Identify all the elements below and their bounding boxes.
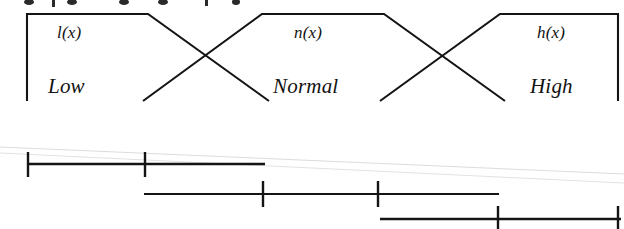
membership-curve-high (380, 14, 618, 101)
term-label-low: Low (48, 76, 85, 97)
membership-label-n-of-x: n(x) (294, 24, 322, 41)
interval-high (380, 206, 621, 229)
membership-label-h-of-x: h(x) (537, 24, 565, 41)
fuzzy-membership-figure: l(x) n(x) h(x) Low Normal High (0, 0, 624, 229)
faint-diagonal-upper-line (0, 147, 624, 174)
interval-normal (144, 181, 499, 207)
faint-diagonal-lower-line (0, 153, 624, 183)
membership-label-l-of-x: l(x) (57, 24, 81, 41)
cropped-text-remnants (24, 0, 240, 7)
term-label-normal: Normal (273, 76, 338, 97)
term-label-high: High (530, 76, 573, 97)
